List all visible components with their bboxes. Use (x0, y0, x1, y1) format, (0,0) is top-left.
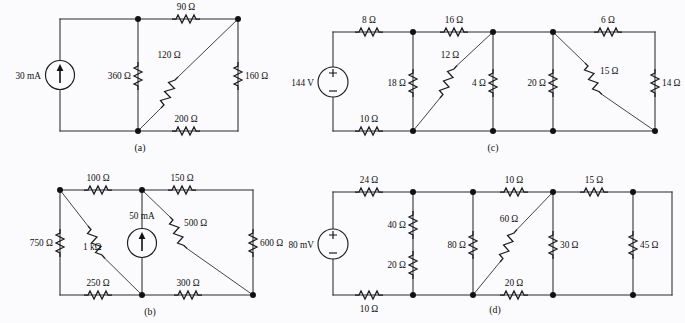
node-b-top-mid (139, 187, 145, 193)
wire-b-diag1k-upper (60, 190, 88, 226)
label-resistor-a-360: 360 Ω (108, 71, 131, 81)
node-a-top-right (235, 16, 241, 22)
label-resistor-c-15: 15 Ω (600, 66, 619, 76)
label-source-a: 30 mA (15, 71, 41, 81)
label-resistor-b-250: 250 Ω (86, 278, 109, 288)
node-d-top-2 (470, 189, 476, 195)
label-resistor-c-6: 6 Ω (601, 15, 615, 25)
subfigure-c: 144 V 8 Ω 16 Ω 6 Ω 18 Ω 12 Ω 4 Ω 20 Ω 15… (291, 15, 680, 154)
label-resistor-b-500: 500 Ω (184, 218, 207, 228)
label-resistor-b-600: 600 Ω (260, 238, 283, 248)
wire-a-diagonal-upper (178, 19, 238, 77)
label-resistor-d-45: 45 Ω (640, 240, 659, 250)
label-resistor-a-160: 160 Ω (245, 71, 268, 81)
label-resistor-c-20: 20 Ω (527, 78, 546, 88)
label-resistor-c-16: 16 Ω (445, 15, 464, 25)
label-resistor-c-14: 14 Ω (662, 78, 681, 88)
label-resistor-d-60: 60 Ω (500, 214, 519, 224)
label-resistor-d-30: 30 Ω (560, 240, 579, 250)
wire-c-diag15-upper (553, 32, 585, 63)
wire-b-diag1k-lower (105, 259, 142, 296)
caption-d: (d) (489, 304, 500, 316)
node-c-top-3 (550, 29, 556, 35)
node-d-top-4 (630, 189, 636, 195)
label-resistor-a-90: 90 Ω (177, 2, 196, 12)
label-resistor-c-12: 12 Ω (441, 50, 460, 60)
subfigure-d: 80 mV 24 Ω 40 Ω 20 Ω 80 Ω 10 Ω 60 Ω 30 Ω… (288, 175, 672, 316)
wire-b-diag500-lower (187, 249, 253, 296)
label-resistor-d-10-bottom: 10 Ω (360, 304, 379, 314)
wire-c-diag15-lower (602, 95, 655, 132)
label-source-c: 144 V (291, 78, 314, 88)
label-resistor-c-18: 18 Ω (387, 78, 406, 88)
circuit-figure-svg: 30 mA 360 Ω 90 Ω 120 Ω 160 Ω 200 Ω (a) (0, 0, 685, 323)
node-a-top-mid (135, 16, 141, 22)
node-c-bottom-1 (410, 128, 416, 134)
node-c-top-1 (410, 29, 416, 35)
label-resistor-b-750: 750 Ω (30, 238, 53, 248)
label-resistor-a-200: 200 Ω (174, 114, 197, 124)
label-resistor-d-24: 24 Ω (360, 175, 379, 185)
node-c-bottom-3 (550, 128, 556, 134)
node-c-bottom-2 (490, 128, 496, 134)
label-resistor-d-15: 15 Ω (585, 175, 604, 185)
label-source-d: 80 mV (288, 240, 314, 250)
label-resistor-d-80: 80 Ω (447, 240, 466, 250)
label-resistor-c-8: 8 Ω (362, 15, 376, 25)
node-b-bottom-right (250, 292, 256, 298)
label-resistor-b-150: 150 Ω (170, 173, 193, 183)
resistor-a-120 (161, 77, 179, 108)
wire-c-diag12-lower (413, 98, 440, 131)
label-resistor-a-120: 120 Ω (157, 50, 180, 60)
node-d-bottom-1 (410, 292, 416, 298)
node-b-top-left (57, 187, 63, 193)
label-resistor-d-10-top: 10 Ω (505, 175, 524, 185)
label-source-b: 50 mA (129, 211, 155, 221)
label-resistor-d-20-bottom: 20 Ω (505, 278, 524, 288)
node-a-bottom-mid (135, 128, 141, 134)
label-resistor-c-4: 4 Ω (472, 78, 486, 88)
node-d-top-1 (410, 189, 416, 195)
label-resistor-d-40: 40 Ω (387, 220, 406, 230)
caption-b: (b) (144, 306, 155, 318)
resistor-d-60 (500, 230, 518, 263)
subfigure-b: 750 Ω 100 Ω 1 kΩ 50 mA 150 Ω 500 Ω 600 Ω… (30, 173, 283, 318)
node-d-top-3 (550, 189, 556, 195)
node-d-bottom-3 (550, 292, 556, 298)
label-resistor-d-20-left: 20 Ω (387, 260, 406, 270)
label-resistor-b-100: 100 Ω (86, 173, 109, 183)
label-resistor-b-300: 300 Ω (176, 278, 199, 288)
node-d-bottom-2 (470, 292, 476, 298)
wire-d-diag60-lower (473, 262, 500, 295)
resistor-c-12 (440, 66, 458, 99)
wire-d-diag60-upper (517, 192, 553, 230)
wire-a-diagonal-lower (138, 108, 161, 131)
label-resistor-b-1k: 1 kΩ (83, 242, 102, 252)
node-b-bottom-mid (139, 292, 145, 298)
node-d-bottom-4 (630, 292, 636, 298)
label-resistor-c-10: 10 Ω (360, 114, 379, 124)
wire-c-diag12-upper (457, 32, 493, 66)
subfigure-a: 30 mA 360 Ω 90 Ω 120 Ω 160 Ω 200 Ω (a) (15, 2, 268, 154)
figure-sheet: 30 mA 360 Ω 90 Ω 120 Ω 160 Ω 200 Ω (a) (0, 0, 685, 323)
node-c-top-2 (490, 29, 496, 35)
caption-a: (a) (135, 142, 146, 154)
caption-c: (c) (488, 142, 499, 154)
node-c-bottom-right (652, 128, 658, 134)
